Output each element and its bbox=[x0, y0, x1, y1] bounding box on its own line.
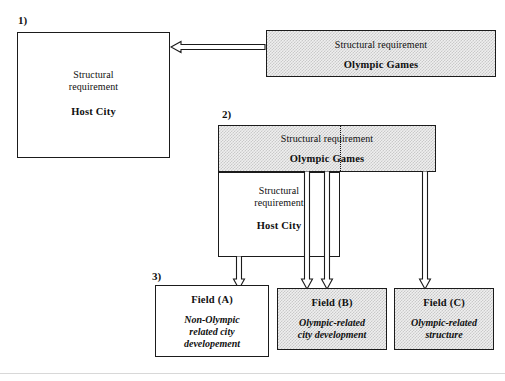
box-field-a-body2: related city bbox=[156, 326, 268, 339]
box-host-city-1: Structural requirement Host City bbox=[17, 32, 170, 158]
box-field-c-title: Field (C) bbox=[395, 296, 493, 309]
box-olympic-games-1-line1: Structural requirement bbox=[267, 39, 495, 52]
box-olympic-games-1-line2: Olympic Games bbox=[267, 58, 495, 71]
box-host-city-1-line2: Host City bbox=[18, 105, 169, 118]
step-label-2: 2) bbox=[222, 108, 231, 120]
box-field-a-body1: Non-Olympic bbox=[156, 314, 268, 327]
box-field-c: Field (C) Olympic-related structure bbox=[394, 288, 494, 350]
page-bottom-rule bbox=[0, 373, 505, 374]
box-olympic-games-1: Structural requirement Olympic Games bbox=[266, 30, 496, 77]
box-host-city-1-line1: Structural bbox=[18, 69, 169, 82]
arrow-olympic2-to-field-c bbox=[418, 171, 432, 290]
dotted-divider bbox=[340, 126, 341, 171]
diagram-canvas: 1) Structural requirement Host City Stru… bbox=[0, 0, 505, 381]
box-field-b-body2: city development bbox=[278, 329, 386, 342]
arrow-olympic2-to-field-a bbox=[300, 171, 314, 290]
box-host-city-1-line1b: requirement bbox=[18, 81, 169, 94]
box-field-c-body2: structure bbox=[395, 329, 493, 342]
arrow-olympic-to-hostcity bbox=[170, 40, 266, 54]
box-field-b-title: Field (B) bbox=[278, 296, 386, 309]
box-field-a-body3: developement bbox=[156, 338, 268, 351]
box-field-b: Field (B) Olympic-related city developme… bbox=[277, 288, 387, 350]
box-olympic-games-2-line1: Structural requirement bbox=[219, 133, 435, 146]
box-field-b-body1: Olympic-related bbox=[278, 317, 386, 330]
box-olympic-games-2-line2: Olympic Games bbox=[219, 152, 435, 165]
arrow-olympic2-to-field-b bbox=[320, 171, 334, 290]
step-label-3: 3) bbox=[152, 270, 161, 282]
box-field-a: Field (A) Non-Olympic related city devel… bbox=[155, 285, 269, 357]
step-label-1: 1) bbox=[18, 14, 27, 26]
box-olympic-games-2: Structural requirement Olympic Games bbox=[218, 125, 436, 172]
box-field-c-body1: Olympic-related bbox=[395, 317, 493, 330]
box-field-a-title: Field (A) bbox=[156, 293, 268, 306]
